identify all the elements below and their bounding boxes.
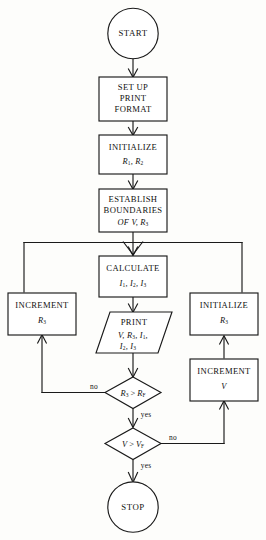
node-initialize-r1-r2 [99, 135, 167, 174]
node-setup-line2: PRINT [120, 93, 147, 103]
node-decision-v-label: V > VF [122, 439, 144, 448]
edge-label-decision-v-no: no [169, 433, 177, 442]
node-establish-line2: BOUNDARIES [104, 205, 163, 215]
node-print-line1: PRINT [121, 317, 148, 327]
flowchart-canvas: START SET UP PRINT FORMAT INITIALIZE R1,… [0, 0, 266, 540]
node-initialize-r3 [190, 293, 258, 335]
node-establish-line3: OF V, R3 [118, 217, 149, 226]
flowchart-diagram: START SET UP PRINT FORMAT INITIALIZE R1,… [0, 0, 266, 540]
edge-label-decision-r-yes: yes [141, 410, 151, 419]
node-initialize-r1-r2-line2: R1, R2 [121, 157, 143, 166]
node-initialize-r1-r2-line1: INITIALIZE [109, 142, 157, 152]
node-increment-v-line2: V [221, 382, 227, 391]
node-increment-v [190, 359, 258, 401]
node-increment-r3-line1: INCREMENT [15, 300, 69, 310]
node-initialize-r3-line1: INITIALIZE [200, 300, 248, 310]
node-setup-line1: SET UP [118, 82, 148, 92]
edge-label-decision-v-yes: yes [141, 461, 151, 470]
node-calculate-line1: CALCULATE [106, 263, 159, 273]
node-stop-label: STOP [121, 502, 144, 512]
node-start-label: START [118, 28, 147, 38]
node-increment-v-line1: INCREMENT [197, 366, 251, 376]
edge-label-decision-r-no: no [90, 382, 98, 391]
node-increment-r3 [8, 293, 76, 335]
node-decision-r-label: R3 > RF [120, 388, 146, 397]
node-establish-line1: ESTABLISH [109, 194, 158, 204]
node-setup-line3: FORMAT [115, 104, 152, 114]
